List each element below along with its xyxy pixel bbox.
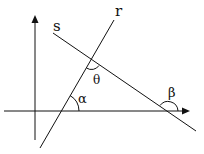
line-r-label: r [115, 4, 122, 19]
angle-beta-arc [160, 101, 178, 111]
angle-beta-label: β [168, 86, 176, 99]
line-s-label: s [53, 19, 61, 34]
angle-theta-label: θ [93, 74, 100, 86]
line-s [53, 33, 196, 131]
y-axis-arrow-icon [32, 15, 39, 23]
x-axis-arrow-icon [182, 108, 190, 115]
diagram-svg [0, 0, 204, 154]
angle-alpha-label: α [78, 92, 87, 105]
diagram-canvas: r s θ α β [0, 0, 204, 154]
angle-theta-arc [87, 66, 100, 70]
line-r [40, 20, 114, 148]
